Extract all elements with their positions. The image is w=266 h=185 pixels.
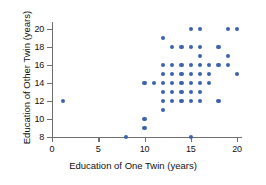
data-point: [142, 126, 146, 130]
data-point: [207, 63, 211, 67]
data-point: [189, 45, 193, 49]
data-point: [142, 81, 146, 85]
data-point: [207, 81, 211, 85]
data-point: [161, 63, 165, 67]
data-point: [152, 81, 156, 85]
data-point: [198, 72, 202, 76]
data-point: [161, 99, 165, 103]
data-point: [170, 72, 174, 76]
data-point: [170, 63, 174, 67]
data-point: [170, 99, 174, 103]
data-point: [207, 72, 211, 76]
data-point: [179, 90, 183, 94]
data-point: [189, 135, 193, 139]
data-point: [170, 90, 174, 94]
data-point: [216, 99, 220, 103]
data-point: [189, 27, 193, 31]
y-tick-mark: [47, 65, 52, 66]
data-point: [179, 81, 183, 85]
data-point: [179, 63, 183, 67]
chart-plot-area: 8101214161820 05101520 Education of One …: [0, 0, 266, 185]
x-tick-label: 20: [227, 144, 247, 154]
data-point: [170, 81, 174, 85]
x-tick-label: 15: [181, 144, 201, 154]
data-point: [198, 63, 202, 67]
x-tick-label: 0: [42, 144, 62, 154]
data-point: [226, 27, 230, 31]
data-point: [216, 45, 220, 49]
data-point: [142, 117, 146, 121]
data-point: [198, 99, 202, 103]
data-point: [170, 45, 174, 49]
data-point: [189, 72, 193, 76]
data-point: [61, 99, 65, 103]
x-tick-label: 10: [135, 144, 155, 154]
data-point: [161, 72, 165, 76]
y-tick-mark: [47, 119, 52, 120]
data-point: [179, 72, 183, 76]
x-tick-mark: [237, 137, 238, 142]
data-point: [179, 99, 183, 103]
x-tick-mark: [98, 137, 99, 142]
data-point: [189, 90, 193, 94]
data-point: [235, 72, 239, 76]
data-point: [161, 108, 165, 112]
data-point: [179, 45, 183, 49]
data-point: [216, 63, 220, 67]
data-point: [161, 81, 165, 85]
data-point: [226, 54, 230, 58]
y-tick-mark: [47, 101, 52, 102]
x-tick-mark: [52, 137, 53, 142]
data-point: [198, 27, 202, 31]
data-point: [198, 90, 202, 94]
scatter-plot-screenshot: 8101214161820 05101520 Education of One …: [0, 0, 266, 185]
data-point: [198, 45, 202, 49]
y-tick-mark: [47, 83, 52, 84]
data-point: [189, 63, 193, 67]
y-axis-title: Education of Other Twin (years): [21, 0, 32, 158]
data-point: [189, 99, 193, 103]
data-point: [226, 63, 230, 67]
y-axis-line: [52, 22, 53, 138]
x-axis-line: [52, 137, 242, 138]
y-tick-mark: [47, 47, 52, 48]
data-point: [161, 90, 165, 94]
data-point: [161, 36, 165, 40]
data-point: [124, 135, 128, 139]
x-tick-mark: [145, 137, 146, 142]
data-point: [198, 81, 202, 85]
data-point: [198, 54, 202, 58]
data-point: [189, 81, 193, 85]
data-point: [235, 27, 239, 31]
y-tick-mark: [47, 29, 52, 30]
x-tick-label: 5: [88, 144, 108, 154]
x-axis-title: Education of One Twin (years): [0, 160, 266, 171]
